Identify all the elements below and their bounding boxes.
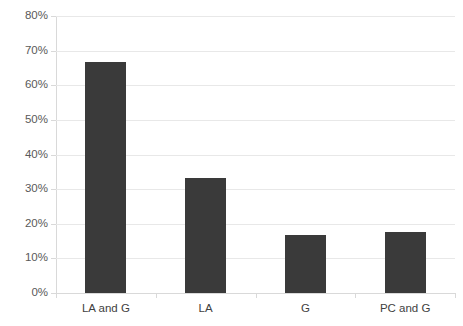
y-axis-tick-mark [51, 51, 56, 52]
y-axis-tick-label: 80% [2, 10, 48, 22]
bar [85, 62, 126, 293]
y-axis-labels: 0%10%20%30%40%50%60%70%80% [0, 0, 48, 326]
bar [185, 178, 226, 293]
gridline [56, 51, 455, 52]
x-axis-category-label: PC and G [345, 303, 463, 315]
y-axis-tick-mark [51, 16, 56, 17]
x-axis-tick-mark [355, 293, 356, 298]
x-axis-tick-mark [156, 293, 157, 298]
y-axis-tick-label: 70% [2, 45, 48, 57]
bar [385, 232, 426, 293]
x-axis-tick-mark [256, 293, 257, 298]
y-axis-tick-label: 10% [2, 252, 48, 264]
x-axis-tick-mark [56, 293, 57, 298]
y-axis-tick-label: 20% [2, 218, 48, 230]
y-axis-tick-label: 30% [2, 183, 48, 195]
y-axis-tick-mark [51, 155, 56, 156]
y-axis-tick-label: 40% [2, 149, 48, 161]
bar-chart: 0%10%20%30%40%50%60%70%80% LA and GLAGPC… [0, 0, 463, 326]
y-axis-tick-label: 50% [2, 114, 48, 126]
y-axis-tick-mark [51, 85, 56, 86]
y-axis-tick-label: 60% [2, 79, 48, 91]
x-axis-tick-mark [455, 293, 456, 298]
bar [285, 235, 326, 293]
gridline [56, 16, 455, 17]
plot-area [56, 16, 455, 293]
y-axis-tick-mark [51, 120, 56, 121]
y-axis-tick-mark [51, 258, 56, 259]
y-axis-tick-mark [51, 224, 56, 225]
y-axis-tick-mark [51, 189, 56, 190]
y-axis-tick-label: 0% [2, 287, 48, 299]
